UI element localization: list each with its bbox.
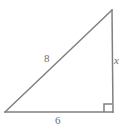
vertical-leg-line <box>112 10 113 112</box>
hypotenuse-line <box>5 10 112 112</box>
triangle-figure: 8 x 6 <box>0 0 129 134</box>
horizontal-leg-label: 6 <box>55 115 61 126</box>
right-angle-marker-icon <box>104 104 112 112</box>
triangle-diagram <box>0 0 129 134</box>
vertical-leg-label: x <box>114 55 119 66</box>
hypotenuse-label: 8 <box>44 53 50 64</box>
